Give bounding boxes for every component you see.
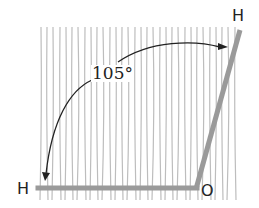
atom-label-oxygen: O (201, 183, 214, 199)
background-lines (40, 27, 236, 200)
atom-label-hydrogen-top: H (232, 8, 244, 24)
arc-arrowhead-top-icon (218, 43, 228, 50)
angle-label: 105° (91, 65, 134, 82)
bond-o-h-diagonal (196, 30, 240, 189)
diagram-canvas (0, 0, 259, 208)
atom-label-hydrogen-left: H (17, 181, 29, 197)
arc-arrowhead-bottom-icon (42, 172, 50, 181)
